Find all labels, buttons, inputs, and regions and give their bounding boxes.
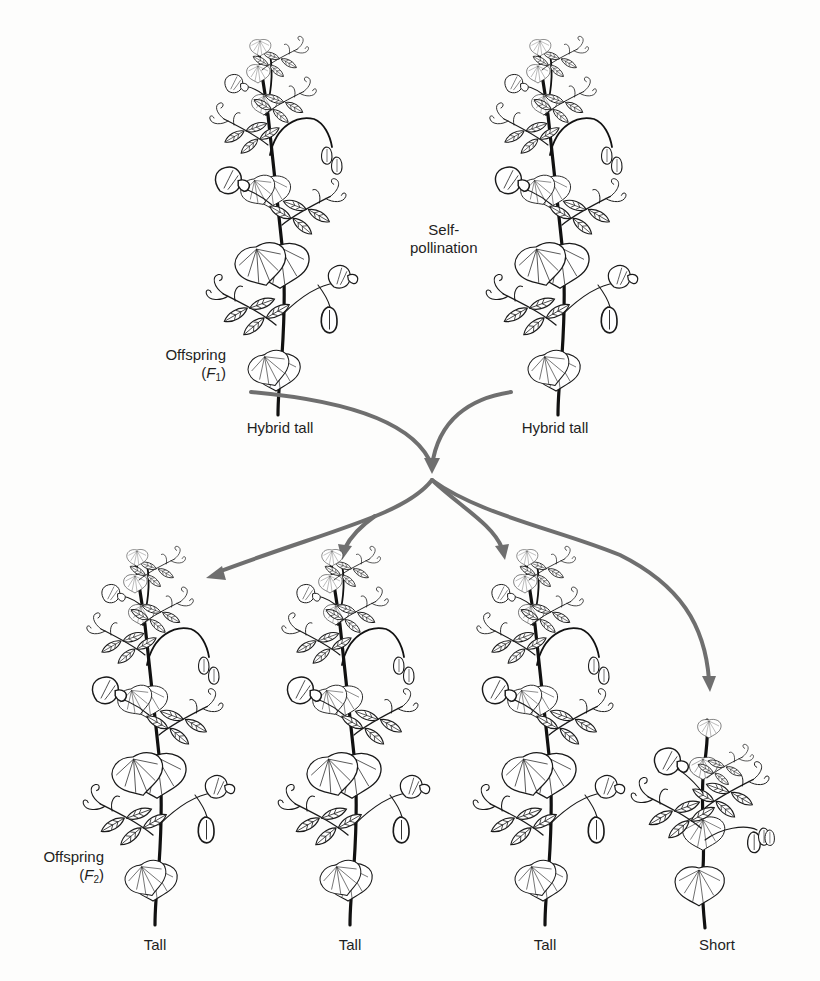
self-pollination-line1: Self- — [410, 221, 478, 239]
f2-plant-1 — [83, 546, 236, 925]
self-pollination-label: Self- pollination — [410, 221, 478, 257]
f1-generation-label: Offspring (F1) — [143, 346, 226, 387]
cross-arrows — [206, 392, 716, 692]
self-pollination-line2: pollination — [410, 239, 478, 257]
merge-arrowhead-icon — [424, 458, 440, 474]
f2-generation-word: Offspring — [22, 848, 104, 866]
f2-plant-2 — [278, 546, 431, 925]
f1-generation-word: Offspring — [143, 346, 226, 364]
f2-generation-symbol: (F2) — [22, 866, 104, 889]
f1-plant-right — [486, 36, 639, 415]
f2-plant-1-label: Tall — [144, 936, 167, 954]
arrow-f1-right — [432, 392, 511, 466]
f1-left-label: Hybrid tall — [247, 419, 314, 437]
f1-plant-left — [206, 36, 359, 415]
arrowhead-f2-4-icon — [702, 676, 716, 692]
f2-plant-3 — [473, 546, 626, 925]
arrowhead-f2-3-icon — [495, 544, 509, 560]
f1-right-label: Hybrid tall — [522, 419, 589, 437]
f2-plant-3-label: Tall — [534, 936, 557, 954]
mendel-cross-diagram: Self- pollination Offspring (F1) Hybrid … — [0, 0, 820, 981]
arrow-to-f2-4 — [432, 480, 709, 680]
f2-plant-4-label: Short — [699, 936, 735, 954]
arrow-to-f2-3 — [432, 480, 502, 548]
f2-generation-label: Offspring (F2) — [22, 848, 104, 889]
f1-generation-symbol: (F1) — [143, 364, 226, 387]
f2-plant-2-label: Tall — [339, 936, 362, 954]
f2-plant-4-short — [631, 719, 774, 928]
diagram-artwork — [0, 0, 820, 981]
